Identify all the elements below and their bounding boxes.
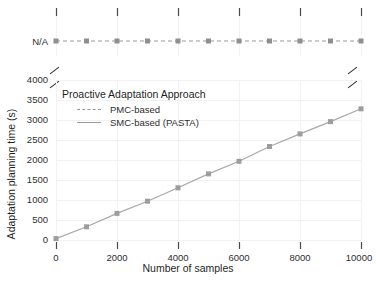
x-axis-ticks: [57, 242, 362, 249]
legend-key-solid-icon: [76, 122, 102, 123]
y-tick-label-4000: 4000: [8, 75, 48, 85]
legend-item-smc-based[interactable]: SMC-based (PASTA): [62, 116, 206, 129]
top-axis-ticks: [57, 8, 362, 16]
na-tick-label: N/A: [10, 36, 48, 47]
upper-gridlines: [57, 14, 362, 56]
axis-break-mark-left-upper: [50, 67, 59, 74]
legend: Proactive Adaptation Approach PMC-based …: [62, 88, 206, 129]
legend-key-dashed-icon: [76, 109, 102, 110]
x-axis-title: Number of samples: [0, 262, 376, 274]
chart-figure: N/A: [0, 0, 376, 286]
legend-label-smc-based: SMC-based (PASTA): [110, 117, 199, 128]
na-panel: [0, 0, 376, 60]
legend-title: Proactive Adaptation Approach: [62, 88, 206, 100]
figure-caption: [0, 276, 376, 286]
legend-item-pmc-based[interactable]: PMC-based: [62, 103, 206, 116]
legend-label-pmc-based: PMC-based: [110, 104, 160, 115]
axis-break-mark-right-upper: [348, 67, 357, 74]
y-axis-title: Adaptation planning time (s): [5, 94, 17, 254]
